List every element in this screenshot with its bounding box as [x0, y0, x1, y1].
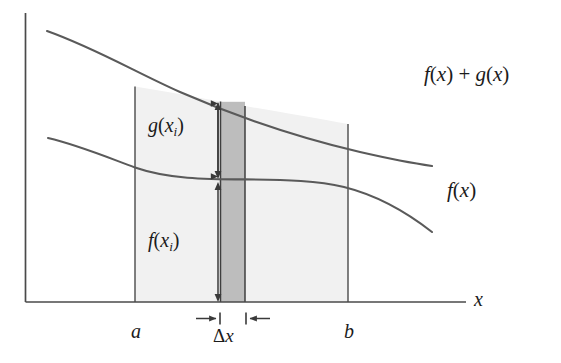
delta-x-var: x [225, 325, 233, 346]
label-f-paren-close: ) [469, 178, 476, 202]
curve-label-f-plus-g: f(x) + g(x) [424, 64, 509, 85]
gxi-base: g [148, 114, 158, 136]
fxi-var: x [160, 229, 169, 251]
gxi-paren-close: ) [177, 114, 184, 136]
curve-label-f: f(x) [447, 180, 476, 201]
label-f-paren-open: ( [453, 178, 460, 202]
x-axis-label: x [474, 289, 483, 309]
gxi-paren-open: ( [158, 114, 165, 136]
fxi-paren-close: ) [173, 229, 180, 251]
axis-label-a: a [131, 321, 141, 341]
label-f-x: x [460, 178, 469, 202]
label-x: x [437, 62, 446, 86]
label-x-2: x [493, 62, 502, 86]
label-paren-open: ( [430, 62, 437, 86]
label-paren-open-2: ( [486, 62, 493, 86]
label-plus: + [453, 62, 475, 86]
representative-strip [221, 102, 246, 302]
label-paren-close-2: ) [502, 62, 509, 86]
gxi-var: x [165, 114, 174, 136]
region-label-f-xi: f(xi) [148, 230, 179, 253]
region-label-g-xi: g(xi) [148, 115, 184, 138]
axis-label-b: b [344, 321, 354, 341]
label-g: g [476, 62, 487, 86]
figure-canvas: f(x) + g(x) f(x) g(xi) f(xi) a b Δx x [0, 0, 561, 363]
representative-strip-group [221, 102, 246, 302]
delta-symbol: Δ [213, 325, 225, 346]
axis-label-delta-x: Δx [213, 326, 234, 345]
